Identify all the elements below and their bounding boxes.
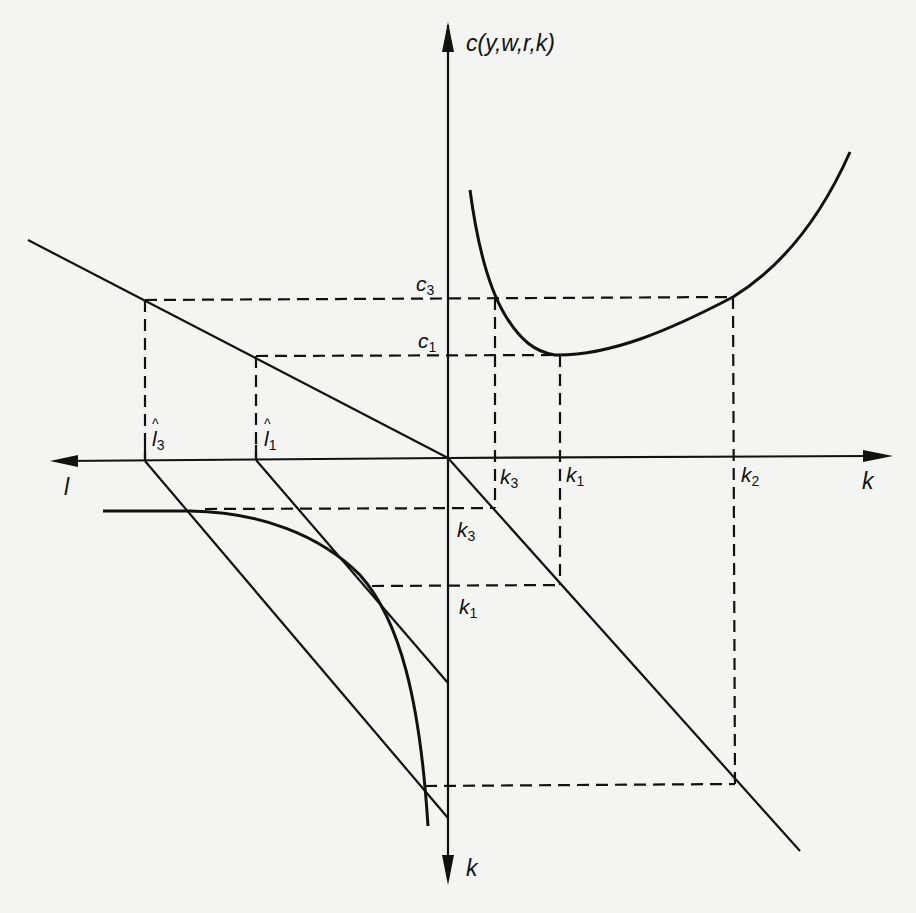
label-k-down: k xyxy=(466,857,478,880)
label-k2-horizontal: k2 xyxy=(741,464,759,488)
label-c3-name: c xyxy=(416,272,427,295)
label-l3-hat: l3 xyxy=(152,428,164,452)
dash-k3-horizontal-lower xyxy=(205,508,495,509)
horizontal-axis-right xyxy=(448,456,868,458)
label-c1-name: c xyxy=(418,329,429,352)
label-k1v-name: k xyxy=(459,595,470,618)
label-k3-name: k xyxy=(500,465,511,488)
label-c1-sub: 1 xyxy=(429,339,437,355)
arrow-right-icon xyxy=(863,450,893,462)
label-c3: c3 xyxy=(416,273,434,297)
label-k3-sub: 3 xyxy=(511,475,519,491)
isoquant-curve xyxy=(103,511,428,826)
axes xyxy=(50,22,893,885)
label-k3-vertical: k3 xyxy=(457,519,475,543)
label-l3-sub: 3 xyxy=(157,437,165,453)
arrow-up-icon xyxy=(442,22,454,52)
dash-k1-horizontal-lower xyxy=(372,585,560,586)
label-k1-sub: 1 xyxy=(577,473,585,489)
label-l1-sub: 1 xyxy=(269,437,277,453)
label-c3-sub: 3 xyxy=(427,282,435,298)
label-c1: c1 xyxy=(418,330,436,354)
label-l1-name: l xyxy=(264,428,269,449)
diagram-canvas xyxy=(0,0,916,913)
label-k1v-sub: 1 xyxy=(470,605,478,621)
arrow-left-icon xyxy=(50,455,78,467)
label-l-left: l xyxy=(64,476,69,499)
label-k3v-name: k xyxy=(457,518,468,541)
isocost-line-l3 xyxy=(145,461,448,818)
label-k-right: k xyxy=(862,470,874,493)
dash-c1-horizontal xyxy=(256,355,560,356)
short-run-cost-curve xyxy=(470,152,850,355)
forty-five-degree-line xyxy=(448,458,800,851)
label-k1-name: k xyxy=(566,463,577,486)
label-k3-horizontal: k3 xyxy=(500,466,518,490)
label-cost-axis: c(y,w,r,k) xyxy=(466,32,555,55)
dash-c3-horizontal xyxy=(145,297,733,300)
isocost-line-l1 xyxy=(256,460,448,683)
cost-labor-line xyxy=(28,240,448,458)
dash-k2-vertical xyxy=(733,297,735,784)
dash-k2-horizontal-lower xyxy=(425,784,735,786)
arrow-down-icon xyxy=(442,855,454,885)
label-k3v-sub: 3 xyxy=(468,528,476,544)
label-k1-horizontal: k1 xyxy=(566,464,584,488)
label-l1-hat: l1 xyxy=(264,428,276,452)
dashed-guides xyxy=(145,297,735,786)
label-k2-sub: 2 xyxy=(752,473,760,489)
solid-lines xyxy=(28,240,800,851)
label-k2-name: k xyxy=(741,463,752,486)
label-k1-vertical: k1 xyxy=(459,596,477,620)
label-l3-name: l xyxy=(152,428,157,449)
